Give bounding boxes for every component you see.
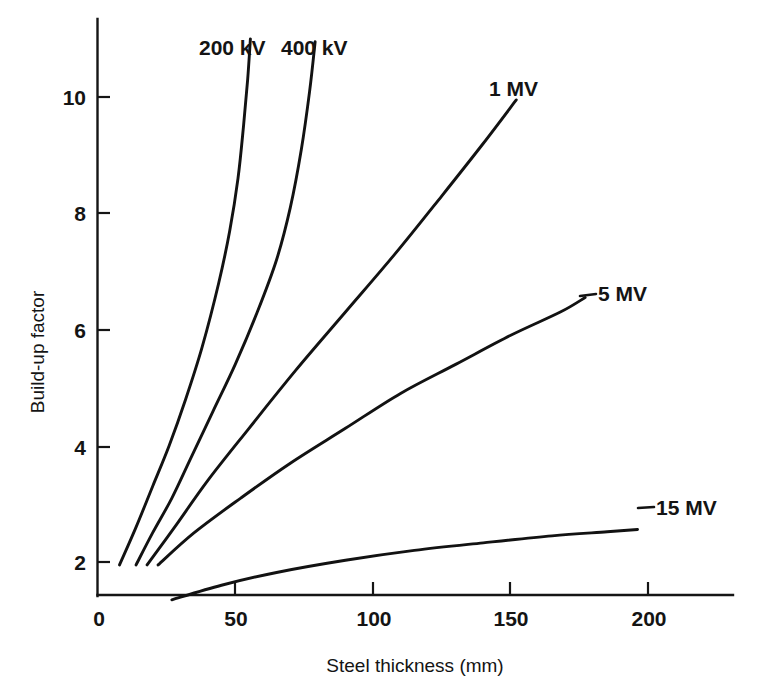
leader-15mv — [638, 507, 654, 508]
x-tick-label-150: 150 — [493, 607, 528, 630]
y-tick-label-8: 8 — [74, 202, 86, 225]
y-tick-label-10: 10 — [63, 86, 86, 109]
series-label-5mv: 5 MV — [598, 282, 647, 305]
chart-canvas: 2 4 6 8 10 0 50 100 150 200 Steel thickn… — [0, 0, 757, 694]
x-tick-label-100: 100 — [356, 607, 391, 630]
y-tick-label-2: 2 — [74, 551, 86, 574]
series-label-1mv: 1 MV — [489, 77, 538, 100]
y-tick-label-6: 6 — [74, 319, 86, 342]
series-label-200kv: 200 kV — [199, 36, 266, 59]
x-axis-title: Steel thickness (mm) — [326, 655, 503, 676]
chart-background — [0, 0, 757, 694]
y-tick-label-4: 4 — [74, 436, 86, 459]
x-tick-label-200: 200 — [631, 607, 666, 630]
series-label-400kv: 400 kV — [281, 36, 348, 59]
series-label-15mv: 15 MV — [656, 496, 717, 519]
y-axis-title: Build-up factor — [27, 290, 48, 413]
x-tick-label-0: 0 — [93, 607, 105, 630]
buildup-factor-chart: 2 4 6 8 10 0 50 100 150 200 Steel thickn… — [0, 0, 757, 694]
x-tick-label-50: 50 — [224, 607, 247, 630]
